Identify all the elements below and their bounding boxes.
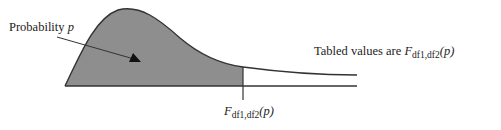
critical-subscript: df1,df2: [232, 110, 260, 120]
tabled-subscript: df1,df2: [412, 50, 440, 60]
critical-value-label: Fdf1,df2(p): [224, 104, 274, 120]
tabled-function: F: [404, 44, 412, 58]
critical-function: F: [224, 104, 232, 118]
tabled-values-label: Tabled values are Fdf1,df2(p): [314, 44, 454, 60]
probability-label: Probability p: [9, 20, 74, 35]
tabled-values-text: Tabled values are: [314, 44, 404, 58]
tabled-argument: (p): [440, 44, 455, 58]
critical-argument: (p): [259, 104, 274, 118]
probability-variable: p: [68, 20, 74, 34]
probability-label-text: Probability: [9, 20, 68, 34]
